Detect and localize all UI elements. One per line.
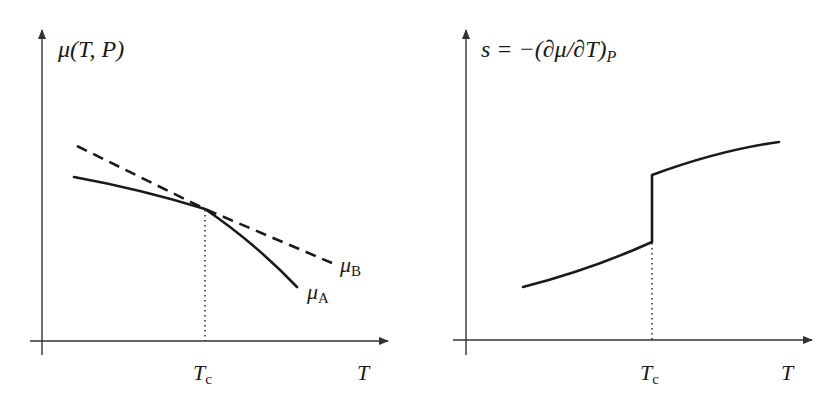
mu-a-curve: [74, 177, 297, 287]
right-tc-label: Tc: [640, 360, 659, 387]
right-x-axis-label: T: [781, 360, 795, 385]
left-tc-label: Tc: [193, 360, 212, 387]
right-panel-entropy: s = −(∂μ/∂T)P Tc T: [453, 30, 812, 387]
figure-canvas: μ(T, P) μB μA Tc T s = −(∂μ/∂T)P Tc: [0, 0, 836, 402]
mu-b-label: μB: [339, 252, 361, 279]
left-y-axis-label: μ(T, P): [57, 36, 124, 62]
right-y-axis-label: s = −(∂μ/∂T)P: [481, 36, 617, 65]
left-x-axis-label: T: [357, 360, 371, 385]
entropy-curve: [523, 142, 779, 287]
mu-a-label: μA: [306, 279, 329, 306]
left-panel-chemical-potential: μ(T, P) μB μA Tc T: [30, 30, 388, 387]
